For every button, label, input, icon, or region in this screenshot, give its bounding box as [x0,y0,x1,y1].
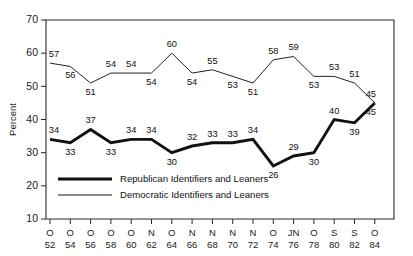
x-tick-month: N [148,227,155,238]
x-tick-month: S [351,227,357,238]
x-tick-year: 78 [309,239,320,250]
y-tick-label: 20 [26,179,38,191]
point-label-democratic: 54 [187,77,197,87]
x-tick-year: 74 [268,239,279,250]
x-tick-year: 64 [167,239,178,250]
y-axis-title: Percent [7,103,18,136]
point-label-republican: 26 [268,170,278,180]
point-label-republican: 32 [187,132,197,142]
x-tick-year: 76 [288,239,299,250]
x-tick-month: O [128,227,135,238]
point-label-democratic: 54 [126,59,136,69]
x-tick-year: 66 [187,239,198,250]
x-tick-month: N [209,227,216,238]
point-label-republican: 34 [49,125,59,135]
x-tick-month: N [189,227,196,238]
x-tick-month: O [46,227,53,238]
x-tick-month: O [371,227,378,238]
point-label-democratic: 58 [268,46,278,56]
x-tick-month: N [250,227,257,238]
x-tick-year: 72 [248,239,259,250]
x-tick-month: S [331,227,337,238]
x-tick-month: O [107,227,114,238]
point-label-democratic: 54 [106,59,116,69]
point-label-democratic: 56 [65,70,75,80]
point-label-democratic: 59 [288,42,298,52]
y-tick-label: 10 [26,212,38,224]
point-label-republican: 34 [126,125,136,135]
legend-label-democratic: Democratic Identifiers and Leaners [120,189,269,200]
x-tick-year: 54 [65,239,76,250]
x-tick-month: N [229,227,236,238]
point-label-republican: 33 [65,147,75,157]
x-tick-year: 60 [126,239,137,250]
point-label-democratic: 53 [228,80,238,90]
point-label-democratic: 60 [167,39,177,49]
x-tick-year: 56 [85,239,96,250]
point-label-republican: 37 [85,115,95,125]
point-label-republican: 45 [366,107,376,117]
x-tick-month: O [87,227,94,238]
x-tick-year: 62 [146,239,157,250]
point-label-republican: 30 [167,157,177,167]
point-label-republican: 33 [228,129,238,139]
point-label-democratic: 57 [49,49,59,59]
point-label-republican: 39 [349,127,359,137]
x-tick-year: 58 [106,239,117,250]
x-tick-month: O [310,227,317,238]
point-label-democratic: 54 [146,77,156,87]
x-tick-month: O [168,227,175,238]
y-tick-label: 40 [26,113,38,125]
point-label-democratic: 51 [85,87,95,97]
point-label-democratic: 51 [248,87,258,97]
point-label-democratic: 51 [349,69,359,79]
point-label-democratic: 55 [207,56,217,66]
y-tick-label: 60 [26,46,38,58]
legend-label-republican: Republican Identifiers and Leaners [120,173,268,184]
x-tick-year: 80 [329,239,340,250]
x-tick-year: 70 [227,239,238,250]
x-tick-month: JN [288,227,300,238]
point-label-republican: 40 [329,106,339,116]
point-label-republican: 34 [248,125,258,135]
point-label-republican: 29 [288,142,298,152]
x-tick-year: 84 [370,239,381,250]
x-tick-year: 82 [349,239,360,250]
x-tick-year: 68 [207,239,218,250]
point-label-democratic: 53 [309,80,319,90]
point-label-republican: 34 [146,125,156,135]
point-label-republican: 33 [106,147,116,157]
y-tick-label: 50 [26,80,38,92]
point-label-democratic: 45 [366,89,376,99]
line-chart: 10203040506070PercentO52O54O56O58O60N62O… [0,0,413,256]
point-label-republican: 33 [207,129,217,139]
y-tick-label: 30 [26,146,38,158]
point-label-republican: 30 [309,157,319,167]
x-tick-month: O [270,227,277,238]
x-tick-year: 52 [45,239,56,250]
x-tick-month: O [67,227,74,238]
y-tick-label: 70 [26,13,38,25]
point-label-democratic: 53 [329,62,339,72]
chart-container: 10203040506070PercentO52O54O56O58O60N62O… [0,0,413,256]
